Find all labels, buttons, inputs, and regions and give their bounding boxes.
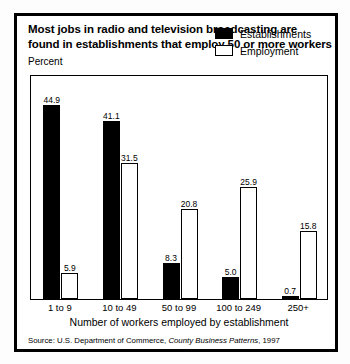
plot-area: 44.95.941.131.58.320.85.025.90.715.8 [31,76,327,299]
legend-label-employment: Employment [240,45,298,57]
source-prefix: Source: U.S. Department of Commerce, [28,336,168,345]
bar-value-label: 0.7 [284,286,296,296]
x-axis-title: Number of workers employed by establishm… [30,316,328,328]
bar-employment-250+: 15.8 [300,231,317,299]
x-axis-tick-label: 1 to 9 [48,302,72,313]
x-axis-categories: 1 to 910 to 4950 to 99100 to 249250+ [30,302,328,316]
chart-outer-border: Most jobs in radio and television broadc… [14,13,338,352]
legend-swatch-employment-icon [215,45,233,56]
chart-legend: Establishments Employment [215,25,315,59]
figure-canvas: Most jobs in radio and television broadc… [0,0,350,364]
source-note: Source: U.S. Department of Commerce, Cou… [28,336,280,345]
plot-frame: 44.95.941.131.58.320.85.025.90.715.8 [30,75,328,300]
x-axis-tick-label: 100 to 249 [216,302,261,313]
y-axis-label: Percent [28,56,62,67]
source-suffix: , 1997 [258,336,280,345]
legend-item-establishments: Establishments [215,25,315,42]
x-axis-tick-label: 250+ [287,302,308,313]
source-publication: County Business Patterns [168,336,258,345]
x-axis-tick-label: 50 to 99 [162,302,196,313]
legend-swatch-establishments-icon [215,28,233,39]
bar-group: 0.715.8 [31,76,329,299]
bar-establishments-250+: 0.7 [282,296,299,299]
x-axis-tick-label: 10 to 49 [102,302,136,313]
legend-item-employment: Employment [215,42,315,59]
legend-label-establishments: Establishments [240,28,311,40]
bar-value-label: 15.8 [300,221,317,231]
